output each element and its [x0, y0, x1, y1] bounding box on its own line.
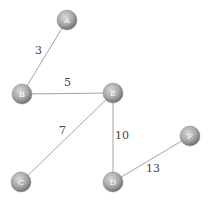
node-e: E [103, 83, 123, 103]
node-b: B [12, 84, 32, 104]
node-label: A [63, 16, 70, 25]
node-a: A [57, 10, 77, 30]
edge-weight-label: 10 [115, 129, 129, 142]
graph-svg: 3571013 ABECDF [0, 0, 212, 204]
edge-weight-label: 7 [59, 124, 66, 137]
edge-labels-layer: 3571013 [35, 44, 160, 175]
node-f: F [180, 126, 200, 146]
edge-weight-label: 3 [35, 44, 42, 57]
node-d: D [103, 172, 123, 192]
node-label: C [18, 178, 24, 187]
graph-diagram: 3571013 ABECDF [0, 0, 212, 204]
edge-e-c [21, 93, 113, 182]
edge-b-e [22, 93, 113, 94]
node-label: E [110, 89, 116, 98]
node-label: B [19, 90, 25, 99]
edge-weight-label: 5 [64, 76, 71, 89]
node-label: D [110, 178, 116, 187]
edge-weight-label: 13 [146, 162, 160, 175]
node-label: F [187, 132, 193, 141]
edges-layer [21, 20, 190, 182]
node-c: C [11, 172, 31, 192]
edge-a-b [22, 20, 67, 94]
edge-d-f [113, 136, 190, 182]
